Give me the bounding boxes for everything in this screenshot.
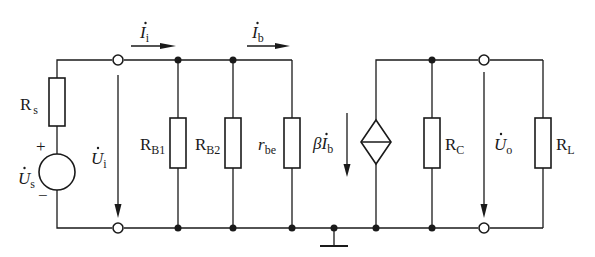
- resistor-rl: RL: [535, 118, 575, 168]
- ui-arrow: Ui: [91, 75, 122, 218]
- us-label: Us: [18, 169, 35, 191]
- uo-label: Uo: [494, 135, 512, 157]
- phasor-dot-ii: [144, 22, 146, 24]
- input-terminal-bottom: [113, 223, 123, 233]
- source-plus-sign: +: [36, 137, 46, 156]
- ground-node: [331, 225, 338, 232]
- output-terminal-bottom: [479, 223, 489, 233]
- resistor-rs: Rs: [20, 78, 65, 126]
- rb2-label: RB2: [195, 135, 220, 157]
- phasor-dot-ib: [256, 22, 258, 24]
- resistor-rb2: RB2: [195, 118, 241, 168]
- rc-label: RC: [445, 135, 464, 157]
- phasor-dot-beta-ib: [325, 133, 327, 135]
- rb1-label: RB1: [140, 135, 165, 157]
- dependent-current-source: βIb: [312, 113, 391, 177]
- circuit-diagram: Rs + − Us Ui Ii Ib RB1 RB2: [0, 0, 595, 257]
- beta-ib-label: βIb: [312, 134, 333, 156]
- rl-label: RL: [556, 135, 575, 157]
- resistor-rc: RC: [424, 118, 464, 168]
- ui-label: Ui: [91, 149, 107, 171]
- source-minus-sign: −: [38, 186, 48, 205]
- resistor-rb1: RB1: [140, 118, 186, 168]
- resistor-rbe: rbe: [258, 118, 300, 168]
- ib-arrow: Ib: [247, 22, 290, 49]
- ii-arrow: Ii: [131, 22, 176, 49]
- phasor-dot-us: [23, 167, 25, 169]
- ib-label: Ib: [251, 23, 264, 45]
- output-terminal-top: [479, 55, 489, 65]
- uo-arrow: Uo: [481, 72, 513, 218]
- rs-label: Rs: [20, 95, 38, 117]
- phasor-dot-uo: [500, 133, 502, 135]
- phasor-dot-ui: [97, 147, 99, 149]
- rbe-label: rbe: [258, 135, 276, 157]
- input-terminal-top: [113, 55, 123, 65]
- ii-label: Ii: [139, 23, 150, 45]
- voltage-source: + − Us: [18, 137, 75, 205]
